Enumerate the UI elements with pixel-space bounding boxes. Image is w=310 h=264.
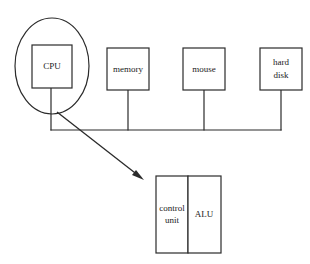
cpu-detail-arrow-shaft (57, 112, 139, 176)
memory-node-label: memory (113, 64, 143, 74)
hard-disk-node-label-line1: hard (273, 57, 289, 67)
control-unit-node-label-line2: unit (165, 215, 180, 225)
mouse-node-label: mouse (192, 64, 216, 74)
alu-node-label: ALU (195, 209, 214, 219)
computer-architecture-diagram: CPU memory mouse hard disk control unit … (0, 0, 310, 264)
diagram-svg-surface: CPU memory mouse hard disk control unit … (0, 0, 310, 264)
control-unit-node-label-line1: control (159, 203, 185, 213)
hard-disk-node-label-line2: disk (273, 70, 289, 80)
cpu-node-label: CPU (43, 61, 61, 71)
hard-disk-node-box (260, 48, 302, 90)
